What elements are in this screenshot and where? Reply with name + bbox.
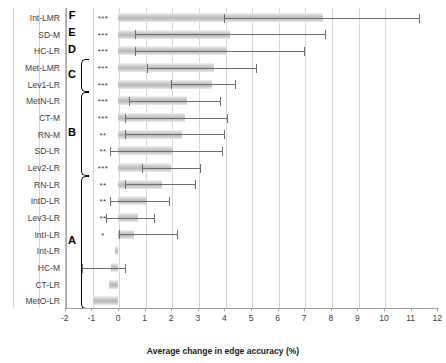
significance-marker: *** [92, 15, 114, 23]
error-bar-cap [125, 130, 126, 139]
group-bracket-c [81, 59, 89, 92]
category-label: Int-LR [0, 246, 60, 256]
x-tick-mark [251, 308, 252, 311]
significance-marker: ** [92, 182, 114, 190]
error-bar-cap [256, 64, 257, 73]
x-tick-label: 9 [347, 313, 367, 323]
error-bar-cap [129, 97, 130, 106]
group-bracket-a [81, 176, 89, 309]
category-label: RN-LR [0, 180, 60, 190]
x-tick-label: 7 [294, 313, 314, 323]
category-label: Int-LMR [0, 13, 60, 23]
x-tick-mark [118, 308, 119, 311]
significance-marker: ** [92, 148, 114, 156]
bar [115, 246, 118, 255]
x-tick-label: 1 [135, 313, 155, 323]
group-label-b: B [64, 126, 80, 138]
x-tick-label: 12 [427, 313, 446, 323]
x-tick-mark [304, 308, 305, 311]
error-bar-cap [154, 214, 155, 223]
error-bar-cap [222, 147, 223, 156]
x-axis-title: Average change in edge accuracy (%) [0, 346, 446, 356]
significance-marker: *** [92, 98, 114, 106]
error-bar [125, 184, 195, 185]
significance-marker: ** [92, 215, 114, 223]
error-bar [125, 134, 225, 135]
group-label-a: A [64, 234, 80, 246]
error-bar [142, 168, 201, 169]
category-label: Lev3-LR [0, 213, 60, 223]
error-bar [224, 18, 418, 19]
error-bar-cap [125, 114, 126, 123]
error-bar-cap [224, 14, 225, 23]
group-bracket-b [81, 92, 89, 175]
error-bar-cap [142, 164, 143, 173]
x-tick-mark [65, 308, 66, 311]
error-bar-cap [220, 97, 221, 106]
error-bar-cap [325, 30, 326, 39]
x-tick-label: 4 [214, 313, 234, 323]
category-label: SD-M [0, 30, 60, 40]
error-bar [147, 68, 256, 69]
x-tick-label: 0 [108, 313, 128, 323]
x-tick-mark [437, 308, 438, 311]
error-bar [125, 118, 227, 119]
category-label: RN-M [0, 130, 60, 140]
category-label: Lev2-LR [0, 163, 60, 173]
category-label: IntI-LR [0, 230, 60, 240]
error-bar-cap [195, 180, 196, 189]
category-label: MetO-LR [0, 296, 60, 306]
x-tick-label: 2 [161, 313, 181, 323]
significance-marker: ** [92, 132, 114, 140]
error-bar-cap [200, 164, 201, 173]
error-bar [129, 101, 221, 102]
error-bar-cap [224, 130, 225, 139]
significance-marker: ** [92, 198, 114, 206]
x-tick-label: 5 [241, 313, 261, 323]
error-bar-cap [169, 197, 170, 206]
x-tick-mark [357, 308, 358, 311]
bar [93, 296, 118, 305]
category-label: SD-LR [0, 146, 60, 156]
group-label-c: C [64, 68, 80, 80]
x-tick-mark [224, 308, 225, 311]
x-tick-mark [411, 308, 412, 311]
error-bar-cap [125, 180, 126, 189]
x-tick-mark [171, 308, 172, 311]
significance-marker: *** [92, 115, 114, 123]
error-bar [135, 51, 304, 52]
x-tick-label: 6 [268, 313, 288, 323]
error-bar-cap [235, 80, 236, 89]
category-label: HC-M [0, 263, 60, 273]
category-label: HC-LR [0, 46, 60, 56]
bar-chart: Int-LMRSD-MHC-LRMet-LMRLev1-LRMetN-LRCT-… [0, 0, 446, 363]
error-bar [110, 201, 169, 202]
significance-marker: *** [92, 65, 114, 73]
error-bar-cap [304, 47, 305, 56]
significance-marker: * [92, 232, 114, 240]
x-tick-label: 10 [374, 313, 394, 323]
bar [109, 280, 118, 289]
category-label: MetN-LR [0, 96, 60, 106]
error-bar [171, 84, 235, 85]
x-tick-mark [145, 308, 146, 311]
x-tick-mark [331, 308, 332, 311]
significance-marker: *** [92, 32, 114, 40]
x-tick-label: -2 [55, 313, 75, 323]
x-tick-label: 3 [188, 313, 208, 323]
x-tick-mark [91, 308, 92, 311]
error-bar-cap [135, 47, 136, 56]
significance-marker: *** [92, 82, 114, 90]
error-bar [135, 34, 325, 35]
error-bar-cap [419, 14, 420, 23]
category-label: Lev1-LR [0, 80, 60, 90]
category-label: Met-LMR [0, 63, 60, 73]
error-bar-cap [119, 230, 120, 239]
x-tick-label: -1 [81, 313, 101, 323]
error-bar [119, 234, 176, 235]
group-label-e: E [64, 26, 80, 38]
x-tick-label: 11 [401, 313, 421, 323]
error-bar-cap [177, 230, 178, 239]
x-tick-label: 8 [321, 313, 341, 323]
error-bar-cap [125, 264, 126, 273]
